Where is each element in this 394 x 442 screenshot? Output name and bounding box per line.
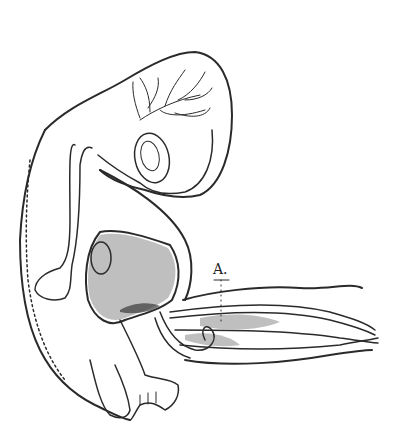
spine-dashes — [26, 160, 65, 380]
eye-outer — [130, 130, 174, 186]
eye-inner — [138, 139, 162, 172]
hindlimb — [90, 360, 130, 418]
label-a: A. — [213, 261, 228, 277]
forelimb — [35, 145, 92, 300]
umbilical-cord — [155, 286, 378, 364]
vessel-branches — [133, 70, 212, 120]
embryo-drawing — [0, 0, 394, 442]
face-contour — [98, 130, 213, 194]
